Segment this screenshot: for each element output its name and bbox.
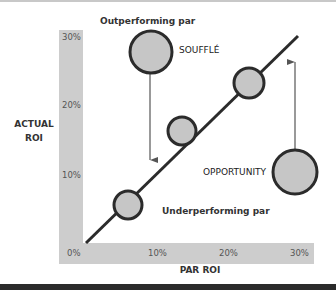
souffle-bubble [130, 31, 172, 73]
opportunity-label: OPPORTUNITY [203, 167, 266, 177]
outperforming-label: Outperforming par [100, 16, 195, 26]
opportunity-bubble [273, 150, 317, 194]
bubble-mid [168, 117, 196, 145]
souffle-label: SOUFFLÉ [179, 45, 219, 55]
bubble-high [234, 68, 264, 98]
bottom-rule [0, 284, 336, 290]
plot-area [0, 0, 336, 293]
underperforming-label: Underperforming par [162, 206, 270, 216]
bubble-low [114, 191, 142, 219]
